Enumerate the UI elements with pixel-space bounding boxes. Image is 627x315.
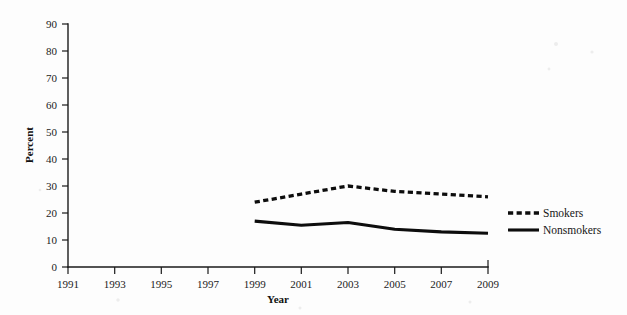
x-axis-tick-labels: 1991 1993 1995 1997 1999 2001 2003 2005 … xyxy=(57,278,500,290)
legend-label-smokers: Smokers xyxy=(543,207,584,219)
y-tick-label: 50 xyxy=(46,126,58,138)
y-tick-label: 60 xyxy=(46,99,58,111)
x-tick-label: 2005 xyxy=(384,278,407,290)
x-tick-label: 2001 xyxy=(290,278,312,290)
x-tick-label: 2009 xyxy=(477,278,500,290)
x-axis-title: Year xyxy=(267,293,289,305)
y-tick-label: 90 xyxy=(46,18,58,30)
chart-page: 0 10 20 30 40 50 60 70 80 90 1991 xyxy=(0,0,627,315)
series-line-smokers xyxy=(255,186,488,202)
line-chart: 0 10 20 30 40 50 60 70 80 90 1991 xyxy=(0,0,627,315)
legend: Smokers Nonsmokers xyxy=(508,207,602,236)
y-tick-label: 40 xyxy=(46,153,58,165)
x-axis-ticks xyxy=(68,267,488,274)
x-tick-label: 1995 xyxy=(150,278,173,290)
y-tick-label: 20 xyxy=(46,207,58,219)
y-tick-label: 10 xyxy=(46,234,58,246)
y-tick-label: 70 xyxy=(46,72,58,84)
scan-noise xyxy=(39,42,594,310)
x-tick-label: 2003 xyxy=(337,278,360,290)
y-axis-tick-labels: 0 10 20 30 40 50 60 70 80 90 xyxy=(46,18,58,273)
series-line-nonsmokers xyxy=(255,221,488,233)
x-tick-label: 1999 xyxy=(244,278,267,290)
y-tick-label: 0 xyxy=(52,261,58,273)
x-tick-label: 1997 xyxy=(197,278,220,290)
x-tick-label: 1991 xyxy=(57,278,79,290)
x-tick-label: 2007 xyxy=(430,278,453,290)
y-axis-title: Percent xyxy=(23,127,35,163)
y-tick-label: 80 xyxy=(46,45,58,57)
y-tick-label: 30 xyxy=(46,180,58,192)
y-axis-ticks xyxy=(62,24,68,267)
legend-label-nonsmokers: Nonsmokers xyxy=(543,224,602,236)
x-tick-label: 1993 xyxy=(104,278,127,290)
